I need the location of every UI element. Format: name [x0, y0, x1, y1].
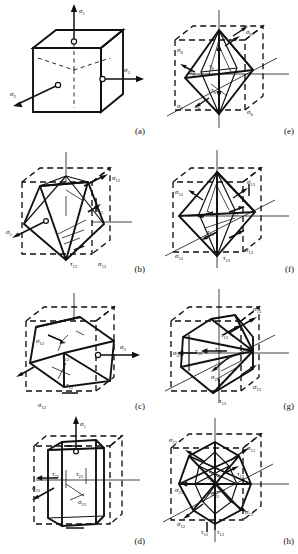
svg-text:τ23: τ23 — [195, 347, 203, 356]
svg-text:τ23: τ23 — [76, 470, 84, 479]
panel-d: τ23 τ23 σ23 σ23 σ1 (d) — [0, 410, 149, 548]
svg-text:σ13: σ13 — [98, 260, 107, 269]
svg-text:σ8: σ8 — [189, 68, 195, 77]
svg-text:σ3: σ3 — [124, 66, 130, 75]
svg-text:σ23: σ23 — [211, 373, 220, 382]
svg-text:τ12: τ12 — [66, 381, 74, 390]
svg-text:σ1: σ1 — [79, 7, 85, 16]
svg-text:σ12: σ12 — [175, 252, 184, 261]
figure-stress-planes: σ1 σ3 σ2 (a) — [0, 0, 298, 554]
svg-text:σ12: σ12 — [177, 520, 186, 529]
svg-text:τ12: τ12 — [207, 208, 215, 217]
svg-text:σ13: σ13 — [245, 246, 254, 255]
svg-text:τ13: τ13 — [219, 397, 227, 406]
panel-g: σ13 τ13 σ23 τ23 τ23 σ23 σ13 τ13 (g) — [149, 275, 298, 413]
svg-text:σ8: σ8 — [177, 102, 183, 111]
svg-text:σ13: σ13 — [247, 178, 256, 187]
svg-text:σ13: σ13 — [247, 444, 256, 453]
svg-text:σ13: σ13 — [112, 174, 121, 183]
svg-text:τ13: τ13 — [70, 260, 78, 269]
svg-text:σ2: σ2 — [6, 228, 12, 237]
svg-text:σ23: σ23 — [78, 498, 87, 507]
svg-text:σ23: σ23 — [175, 486, 184, 495]
svg-text:σ3: σ3 — [120, 343, 126, 352]
panel-f: σ12 σ13 τ12 τ13 τ12 σ12 τ13 σ13 (f) — [149, 138, 298, 276]
svg-text:σ12: σ12 — [175, 188, 184, 197]
panel-e: σ8 σ8 σ8 σ8 τ8 τ8 τ8 σ8 (e) — [149, 0, 298, 138]
svg-text:σ23: σ23 — [173, 349, 182, 358]
svg-text:τ12: τ12 — [207, 228, 215, 237]
svg-text:σ8: σ8 — [177, 46, 183, 55]
svg-text:σ1: σ1 — [80, 420, 86, 429]
svg-text:σ2: σ2 — [10, 90, 16, 99]
panel-label-d: (d) — [135, 536, 146, 546]
panel-label-a: (a) — [135, 126, 145, 136]
svg-text:σ8: σ8 — [247, 108, 253, 117]
svg-text:σ8: σ8 — [246, 28, 252, 37]
panel-a: σ1 σ3 σ2 (a) — [0, 0, 149, 138]
svg-text:τ13: τ13 — [217, 528, 225, 537]
svg-text:σ12: σ12 — [38, 401, 47, 410]
panel-label-f: (f) — [285, 264, 294, 274]
panel-c: σ12 τ12 τ12 σ12 σ3 (c) — [0, 275, 149, 413]
svg-text:σ23: σ23 — [32, 484, 41, 493]
svg-text:σ13: σ13 — [245, 508, 254, 517]
panel-label-e: (e) — [284, 126, 294, 136]
panel-label-h: (h) — [284, 536, 295, 546]
panel-label-b: (b) — [135, 264, 146, 274]
panel-h: σ12 σ13 τ12 τ13 σ23 σ23 σ13 σ12 τ12 τ13 … — [149, 410, 298, 548]
svg-text:σ12: σ12 — [169, 436, 178, 445]
svg-text:τ23: τ23 — [52, 470, 60, 479]
panel-b: σ13 τ13 σ2 τ13 σ13 (b) — [0, 138, 149, 276]
svg-text:σ12: σ12 — [36, 337, 45, 346]
svg-text:τ13: τ13 — [96, 206, 104, 215]
svg-text:τ13: τ13 — [223, 254, 231, 263]
svg-text:σ13: σ13 — [253, 383, 262, 392]
